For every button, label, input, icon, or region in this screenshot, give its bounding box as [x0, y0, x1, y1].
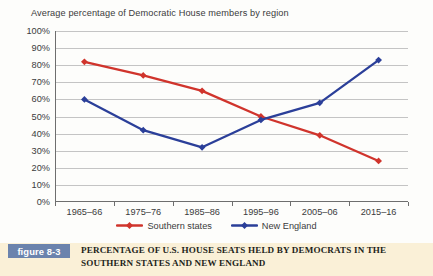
legend-entry[interactable]: Southern states: [116, 220, 211, 231]
series-plot: [55, 31, 408, 202]
x-axis-tick-label: 1995–96: [243, 207, 279, 217]
x-axis-tick-mark: [408, 202, 409, 206]
series-line: [84, 62, 378, 161]
legend-label: New England: [262, 221, 317, 231]
y-axis-tick-label: 90%: [32, 43, 50, 53]
y-axis-tick-label: 20%: [32, 163, 50, 173]
y-axis-tick-label: 30%: [32, 146, 50, 156]
data-point-marker: [316, 132, 323, 139]
x-axis-tick-mark: [55, 202, 56, 206]
y-axis-tick-label: 70%: [32, 77, 50, 87]
plot-area: 0%10%20%30%40%50%60%70%80%90%100% 1965–6…: [55, 31, 408, 202]
y-axis-tick-label: 0%: [37, 197, 50, 207]
x-axis-tick-label: 2015–16: [361, 207, 397, 217]
chart-title: Average percentage of Democratic House m…: [31, 8, 289, 18]
x-axis-tick-mark: [349, 202, 350, 206]
x-axis-tick-mark: [232, 202, 233, 206]
figure-caption-text: PERCENTAGE OF U.S. HOUSE SEATS HELD BY D…: [81, 244, 425, 269]
y-axis-tick-label: 10%: [32, 180, 50, 190]
chart-legend: Southern statesNew England: [0, 220, 433, 231]
data-point-marker: [199, 87, 206, 94]
y-axis-tick-label: 40%: [32, 129, 50, 139]
y-axis-tick-label: 50%: [32, 112, 50, 122]
legend-entry[interactable]: New England: [231, 220, 317, 231]
y-axis-tick-label: 60%: [32, 94, 50, 104]
figure-container: Average percentage of Democratic House m…: [0, 0, 433, 276]
y-axis-tick-label: 100%: [27, 26, 51, 36]
x-axis-tick-mark: [114, 202, 115, 206]
x-axis-tick-label: 1985–86: [184, 207, 220, 217]
figure-number-badge: figure 8-3: [8, 244, 70, 258]
x-axis-tick-label: 2005–06: [302, 207, 338, 217]
figure-caption-band: figure 8-3 PERCENTAGE OF U.S. HOUSE SEAT…: [0, 243, 433, 276]
x-axis-tick-mark: [173, 202, 174, 206]
data-point-marker: [81, 58, 88, 65]
data-point-marker: [375, 158, 382, 165]
y-axis-tick-label: 80%: [32, 60, 50, 70]
legend-swatch-icon: [231, 220, 258, 231]
x-axis-tick-label: 1975–76: [125, 207, 161, 217]
data-point-marker: [140, 72, 147, 79]
x-axis-tick-label: 1965–66: [67, 207, 103, 217]
data-point-marker: [199, 144, 206, 151]
legend-swatch-icon: [116, 220, 143, 231]
legend-label: Southern states: [147, 221, 211, 231]
x-axis-tick-mark: [290, 202, 291, 206]
